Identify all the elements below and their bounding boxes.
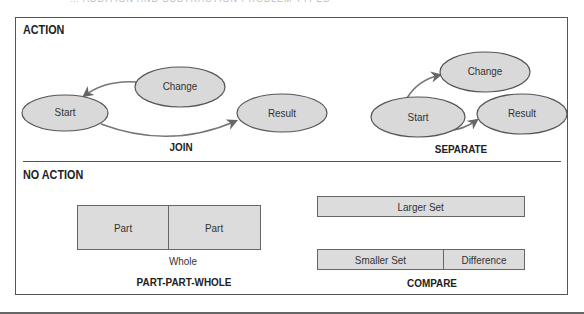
- separate-change-label: Change: [468, 65, 503, 77]
- join-caption: JOIN: [169, 141, 192, 153]
- difference-label: Difference: [462, 254, 507, 266]
- compare-caption: COMPARE: [407, 277, 457, 289]
- section-divider: [23, 161, 561, 162]
- part-2-label: Part: [205, 222, 223, 234]
- whole-label: Whole: [169, 255, 197, 267]
- separate-start-label: Start: [408, 111, 429, 123]
- separate-arrow-start-to-change: [407, 75, 440, 98]
- part-box-2: Part: [168, 205, 261, 250]
- larger-set-label: Larger Set: [398, 201, 444, 213]
- separate-result-label: Result: [508, 107, 536, 119]
- part-part-whole-caption: PART-PART-WHOLE: [137, 276, 232, 288]
- join-change-label: Change: [163, 80, 198, 92]
- no-action-section-label: NO ACTION: [23, 168, 83, 182]
- join-start-label: Start: [55, 106, 76, 118]
- separate-caption: SEPARATE: [435, 143, 487, 155]
- smaller-set-label: Smaller Set: [355, 254, 406, 266]
- part-1-label: Part: [114, 222, 132, 234]
- difference-bar: Difference: [443, 249, 525, 270]
- larger-set-bar: Larger Set: [317, 196, 525, 217]
- part-box-1: Part: [77, 205, 169, 250]
- join-result-label: Result: [268, 107, 296, 119]
- smaller-set-bar: Smaller Set: [317, 249, 444, 270]
- join-arrow-start-to-result: [101, 121, 236, 136]
- join-arrow-change-to-start: [84, 82, 136, 96]
